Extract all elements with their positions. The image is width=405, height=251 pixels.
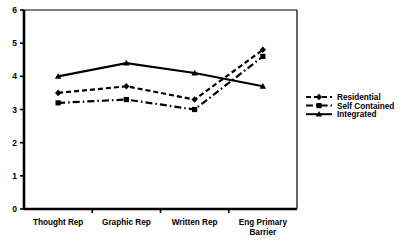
x-category-label: Thought Rep	[33, 218, 83, 227]
y-tick-label: 6	[12, 5, 17, 15]
legend-marker-diamond	[316, 94, 322, 101]
x-category-label: Barrier	[249, 228, 277, 237]
data-point-self-contained	[192, 107, 197, 112]
legend-label-integrated: Integrated	[337, 110, 377, 119]
y-tick-label: 2	[12, 138, 17, 148]
y-tick-label: 0	[12, 204, 17, 214]
data-point-self-contained	[56, 100, 61, 105]
y-tick-label: 5	[12, 38, 17, 48]
data-point-self-contained	[124, 97, 129, 102]
data-point-self-contained	[260, 54, 265, 59]
chart-canvas: 0123456Thought RepGraphic RepWritten Rep…	[0, 0, 405, 251]
legend-marker-square	[316, 103, 321, 108]
y-tick-label: 3	[12, 105, 17, 115]
line-chart: 0123456Thought RepGraphic RepWritten Rep…	[0, 0, 405, 251]
plot-background	[24, 10, 297, 209]
y-tick-label: 4	[12, 71, 17, 81]
x-category-label: Graphic Rep	[102, 218, 151, 227]
x-category-label: Eng Primary	[239, 218, 288, 227]
x-category-label: Written Rep	[172, 218, 218, 227]
y-tick-label: 1	[12, 171, 17, 181]
